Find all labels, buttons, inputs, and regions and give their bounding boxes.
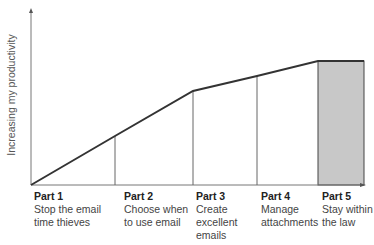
y-axis-label: Increasing my productivity	[1, 20, 21, 170]
part-desc-line: attachments	[261, 216, 318, 229]
y-axis-label-text: Increasing my productivity	[5, 34, 17, 155]
productivity-line	[31, 61, 364, 185]
y-axis-arrow-icon	[29, 8, 33, 13]
part-desc-line: excellent	[196, 216, 237, 229]
part-desc-line: emails	[196, 229, 237, 242]
part-title: Part 3	[196, 190, 237, 203]
part-3-label: Part 3 Create excellent emails	[196, 190, 237, 242]
part-4-label: Part 4 Manage attachments	[261, 190, 318, 229]
part-desc-line: time thieves	[34, 216, 101, 229]
part-2-label: Part 2 Choose when to use email	[124, 190, 188, 229]
part-desc-line: the law	[322, 216, 373, 229]
part-desc-line: Stop the email	[34, 203, 101, 216]
part-1-label: Part 1 Stop the email time thieves	[34, 190, 101, 229]
part-desc-line: Manage	[261, 203, 318, 216]
part-desc-line: Stay within	[322, 203, 373, 216]
part-desc-line: to use email	[124, 216, 188, 229]
part-desc-line: Create	[196, 203, 237, 216]
part-title: Part 5	[322, 190, 373, 203]
part5-shaded-region	[318, 61, 364, 185]
part-title: Part 4	[261, 190, 318, 203]
part-title: Part 1	[34, 190, 101, 203]
part-5-label: Part 5 Stay within the law	[322, 190, 373, 229]
part-desc-line: Choose when	[124, 203, 188, 216]
part-title: Part 2	[124, 190, 188, 203]
